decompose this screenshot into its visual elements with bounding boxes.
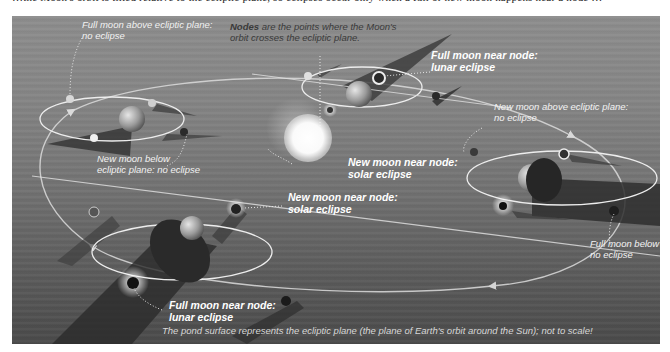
nodes-term: Nodes xyxy=(230,21,259,32)
label-line: Full moon near node: xyxy=(169,299,276,311)
label-line: solar eclipse xyxy=(288,203,352,215)
earth-icon xyxy=(180,216,204,240)
label-line: no eclipse xyxy=(494,112,537,123)
label-line: lunar eclipse xyxy=(431,61,495,73)
label-line: New moon above ecliptic plane: xyxy=(494,101,628,112)
earth-moon-system-top-left xyxy=(40,95,222,156)
label-line: no eclipse xyxy=(82,30,125,41)
moon-icon xyxy=(66,95,74,103)
label-line: New moon near node: xyxy=(348,156,458,168)
earth-moon-system-right xyxy=(467,148,660,226)
orbit-diagram xyxy=(12,16,660,344)
label-new-below: New moon below ecliptic plane: no eclips… xyxy=(97,153,200,175)
nodes-definition-line1: are the points where the Moon's xyxy=(259,21,397,32)
label-full-near-node-bottom: Full moon near node: lunar eclipse xyxy=(169,299,276,323)
label-line: ecliptic plane: no eclipse xyxy=(97,164,200,175)
label-new-near-node-center: New moon near node: solar eclipse xyxy=(348,156,458,180)
label-line: New moon near node: xyxy=(288,191,398,203)
earth-icon xyxy=(346,81,372,107)
label-line: Full moon above ecliptic plane: xyxy=(82,19,212,30)
label-new-above: New moon above ecliptic plane: no eclips… xyxy=(494,101,628,123)
label-line: solar eclipse xyxy=(348,168,412,180)
sun-icon xyxy=(284,114,332,162)
label-full-below: Full moon below ecliptic plane: no eclip… xyxy=(590,238,660,260)
clipped-caption: …the Moon's orbit is tilted relative to … xyxy=(12,0,660,5)
label-line: New moon below xyxy=(97,153,170,164)
label-line: lunar eclipse xyxy=(169,311,233,323)
footer-note: The pond surface represents the ecliptic… xyxy=(162,325,593,336)
label-line: Full moon near node: xyxy=(431,49,538,61)
label-line: Full moon below ecliptic plane: xyxy=(590,238,660,249)
ecliptic-plane-scene: Nodes are the points where the Moon's or… xyxy=(12,16,660,344)
label-full-above: Full moon above ecliptic plane: no eclip… xyxy=(82,19,212,41)
nodes-definition-line2: orbit crosses the ecliptic plane. xyxy=(230,32,360,43)
label-nodes-definition: Nodes are the points where the Moon's or… xyxy=(230,21,397,43)
label-full-near-node-top: Full moon near node: lunar eclipse xyxy=(431,49,538,73)
earth-icon xyxy=(119,106,145,132)
label-new-near-node-lower: New moon near node: solar eclipse xyxy=(288,191,398,215)
label-line: no eclipse xyxy=(590,249,633,260)
